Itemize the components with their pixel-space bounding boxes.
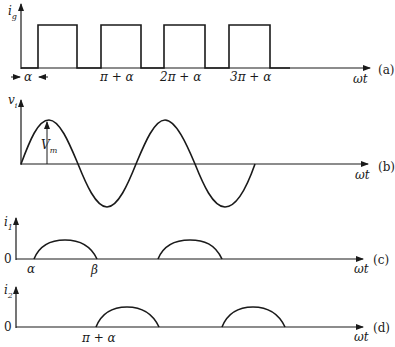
i2-hump-1 bbox=[96, 307, 159, 327]
panel-a-y-label: ig bbox=[8, 4, 17, 21]
panel-c-tag: (c) bbox=[373, 253, 389, 267]
panel-d-x-label: ωt bbox=[354, 330, 369, 344]
panel-b-tag: (b) bbox=[378, 160, 395, 174]
panel-a-x-label: ωt bbox=[353, 72, 368, 86]
panel-a-tag: (a) bbox=[378, 63, 395, 77]
tick-label-pi-plus-alpha-d: π + α bbox=[81, 331, 116, 345]
panel-c-y-label: i1 bbox=[4, 215, 13, 232]
panel-d-current-i2: i2 0 π + α ωt (d) bbox=[4, 283, 390, 345]
tick-label-pi-plus-alpha: π + α bbox=[99, 70, 134, 84]
panel-b-input-voltage: vi Vm ωt (b) bbox=[8, 93, 395, 207]
tick-label-alpha: α bbox=[27, 262, 35, 276]
i1-hump-2 bbox=[158, 240, 222, 259]
gate-pulse-train bbox=[21, 25, 290, 68]
panel-c-current-i1: i1 0 α β ωt (c) bbox=[4, 215, 389, 277]
panel-d-y-label: i2 bbox=[4, 283, 13, 300]
panel-c-x-label: ωt bbox=[354, 262, 369, 276]
tick-label-beta: β bbox=[90, 263, 98, 277]
panel-b-x-label: ωt bbox=[355, 168, 370, 182]
thyristor-waveform-diagram: ig α π + α 2π + α 3π + α ωt (a) vi Vm ωt… bbox=[0, 0, 395, 347]
panel-d-zero-label: 0 bbox=[4, 320, 12, 334]
i1-hump-1 bbox=[34, 240, 97, 259]
panel-c-zero-label: 0 bbox=[4, 252, 12, 266]
amplitude-label: Vm bbox=[41, 138, 58, 155]
panel-b-y-label: vi bbox=[8, 93, 18, 110]
panel-a-gate-current: ig α π + α 2π + α 3π + α ωt (a) bbox=[8, 4, 395, 86]
i2-hump-2 bbox=[222, 307, 285, 327]
panel-d-tag: (d) bbox=[373, 321, 390, 335]
tick-label-2pi-plus-alpha: 2π + α bbox=[159, 70, 201, 84]
panel-a-alpha-label: α bbox=[24, 70, 32, 84]
tick-label-3pi-plus-alpha: 3π + α bbox=[230, 70, 271, 84]
